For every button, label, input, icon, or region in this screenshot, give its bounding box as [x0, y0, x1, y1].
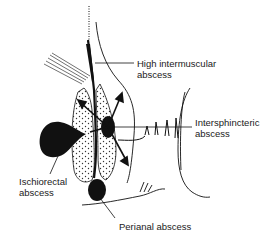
label-line-1: Ischiorectal	[19, 176, 67, 187]
label-line-1: Intersphincteric	[195, 117, 259, 128]
label-intersphincteric-abscess: Intersphincteric abscess	[195, 117, 259, 139]
high-intermuscular-abscess-fill	[86, 44, 94, 82]
label-line-1: Perianal abscess	[119, 221, 191, 232]
label-ischiorectal-abscess: Ischiorectal abscess	[19, 176, 67, 198]
anal-crypts	[118, 118, 178, 140]
label-high-intermuscular-abscess: High intermuscular abscess	[137, 58, 216, 80]
label-line-2: abscess	[195, 128, 259, 139]
label-line-2: abscess	[19, 187, 67, 198]
rectal-wall	[96, 22, 210, 197]
label-line-2: abscess	[137, 69, 216, 80]
label-line-1: High intermuscular	[137, 58, 216, 69]
levator-ani-fibers	[44, 53, 90, 84]
perianal-abscess-shape	[88, 179, 106, 201]
label-perianal-abscess: Perianal abscess	[119, 221, 191, 232]
